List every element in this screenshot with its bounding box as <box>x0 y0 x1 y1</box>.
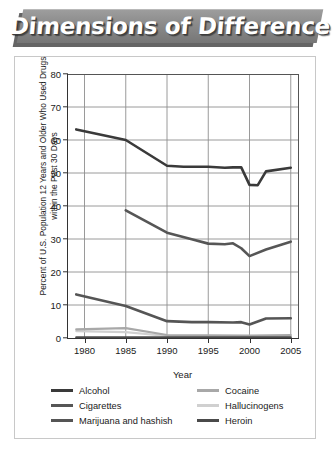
y-tick-mark <box>63 172 68 173</box>
legend-swatch-icon <box>51 419 73 422</box>
legend-swatch-icon <box>197 419 219 422</box>
legend-row: CigarettesHallucinogens <box>51 398 301 413</box>
plot-area: 0102030405060708019801985199019952000200… <box>67 74 299 339</box>
legend-swatch-icon <box>197 389 219 392</box>
legend-label: Cigarettes <box>79 401 121 411</box>
y-tick-label: 70 <box>50 102 61 113</box>
chart-legend: AlcoholCocaineCigarettesHallucinogensMar… <box>51 383 301 428</box>
y-tick-label: 60 <box>50 135 61 146</box>
x-tick-mark <box>85 338 86 343</box>
legend-label: Hallucinogens <box>225 401 283 411</box>
y-tick-mark <box>63 271 68 272</box>
plot-svg <box>68 74 299 338</box>
y-tick-label: 0 <box>56 333 61 344</box>
legend-label: Alcohol <box>79 386 110 396</box>
legend-label: Heroin <box>225 416 252 426</box>
banner-title-text: Dimensions of Difference <box>9 13 331 39</box>
y-tick-mark <box>63 73 68 74</box>
x-tick-mark <box>126 338 127 343</box>
x-tick-label: 1990 <box>156 345 177 356</box>
y-tick-label: 80 <box>50 69 61 80</box>
y-tick-mark <box>63 304 68 305</box>
x-tick-label: 2005 <box>280 345 301 356</box>
legend-label: Cocaine <box>225 386 259 396</box>
y-tick-label: 20 <box>50 267 61 278</box>
x-tick-mark <box>291 338 292 343</box>
line-chart: Percent of U.S. Population 12 Years and … <box>15 57 317 357</box>
legend-item: Hallucinogens <box>197 401 301 411</box>
legend-item: Heroin <box>197 416 301 426</box>
y-tick-mark <box>63 106 68 107</box>
x-tick-label: 2000 <box>239 345 260 356</box>
banner-title: Dimensions of Difference <box>17 9 323 42</box>
legend-item: Marijuana and hashish <box>51 416 197 426</box>
banner: Dimensions of Difference <box>0 0 329 56</box>
legend-row: AlcoholCocaine <box>51 383 301 398</box>
legend-item: Cocaine <box>197 386 301 396</box>
y-tick-label: 30 <box>50 234 61 245</box>
x-axis-title: Year <box>67 369 298 380</box>
y-tick-label: 50 <box>50 168 61 179</box>
legend-swatch-icon <box>51 404 73 407</box>
legend-swatch-icon <box>51 389 73 392</box>
x-tick-label: 1995 <box>198 345 219 356</box>
x-tick-label: 1980 <box>74 345 95 356</box>
y-tick-mark <box>63 205 68 206</box>
y-tick-label: 40 <box>50 201 61 212</box>
x-tick-label: 1985 <box>115 345 136 356</box>
legend-row: Marijuana and hashishHeroin <box>51 413 301 428</box>
x-tick-mark <box>208 338 209 343</box>
legend-item: Alcohol <box>51 386 197 396</box>
x-tick-mark <box>250 338 251 343</box>
legend-item: Cigarettes <box>51 401 197 411</box>
x-tick-mark <box>167 338 168 343</box>
y-tick-mark <box>63 139 68 140</box>
legend-label: Marijuana and hashish <box>79 416 173 426</box>
figure-frame: Percent of U.S. Population 12 Years and … <box>14 56 316 439</box>
y-tick-mark <box>63 337 68 338</box>
y-tick-mark <box>63 238 68 239</box>
y-tick-label: 10 <box>50 300 61 311</box>
legend-swatch-icon <box>197 404 219 407</box>
